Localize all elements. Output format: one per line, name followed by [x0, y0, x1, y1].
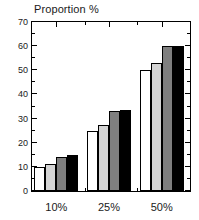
y-tick-left-50 — [32, 69, 37, 70]
x-axis-label-25pct: 25% — [98, 201, 120, 213]
x-tick-bottom-minor-2 — [137, 188, 138, 191]
y-tick-right-60 — [185, 45, 190, 46]
y-axis-label-20: 20 — [18, 138, 28, 148]
x-tick-top-10pct — [56, 22, 57, 27]
y-tick-left-20 — [32, 142, 37, 143]
y-tick-right-45 — [187, 81, 190, 82]
y-tick-right-55 — [187, 57, 190, 58]
bar-10pct-series-2 — [45, 164, 56, 191]
y-tick-left-15 — [32, 154, 35, 155]
y-tick-right-10 — [185, 166, 190, 167]
bar-50pct-series-1 — [140, 70, 151, 191]
bar-25pct-series-4 — [120, 110, 131, 191]
y-tick-left-30 — [32, 118, 37, 119]
y-tick-left-55 — [32, 57, 35, 58]
y-axis-label-60: 60 — [18, 41, 28, 51]
y-tick-right-30 — [185, 118, 190, 119]
y-tick-right-50 — [185, 69, 190, 70]
y-tick-left-60 — [32, 45, 37, 46]
y-axis-label-0: 0 — [23, 186, 28, 196]
plot-inner: 010203040506070 10%25%50% — [32, 22, 190, 191]
x-axis-label-50pct: 50% — [151, 201, 173, 213]
y-tick-left-65 — [32, 33, 35, 34]
y-tick-right-5 — [187, 178, 190, 179]
y-axis-label-70: 70 — [18, 17, 28, 27]
x-tick-bottom-minor-1 — [85, 188, 86, 191]
bar-25pct-series-2 — [98, 125, 109, 191]
chart-title: Proportion % — [34, 3, 99, 15]
chart-figure: Proportion % 010203040506070 10%25%50% — [0, 0, 199, 220]
y-tick-left-25 — [32, 130, 35, 131]
y-tick-left-35 — [32, 106, 35, 107]
y-tick-left-40 — [32, 93, 37, 94]
bar-10pct-series-4 — [67, 155, 78, 191]
bar-50pct-series-3 — [162, 46, 173, 191]
y-tick-left-70 — [32, 21, 37, 22]
y-tick-right-0 — [185, 190, 190, 191]
bar-50pct-series-4 — [173, 46, 184, 191]
y-axis-label-50: 50 — [18, 65, 28, 75]
bar-10pct-series-1 — [34, 167, 45, 191]
x-tick-top-25pct — [109, 22, 110, 27]
y-axis-label-10: 10 — [18, 162, 28, 172]
bar-25pct-series-3 — [109, 111, 120, 191]
y-tick-right-15 — [187, 154, 190, 155]
y-tick-right-25 — [187, 130, 190, 131]
y-tick-right-70 — [185, 21, 190, 22]
x-tick-top-minor-2 — [137, 22, 138, 25]
plot-area: 010203040506070 10%25%50% — [31, 21, 191, 192]
bar-10pct-series-3 — [56, 157, 67, 191]
x-axis-label-10pct: 10% — [45, 201, 67, 213]
bar-50pct-series-2 — [151, 63, 162, 191]
y-tick-right-35 — [187, 106, 190, 107]
y-axis-label-30: 30 — [18, 114, 28, 124]
x-tick-top-50pct — [162, 22, 163, 27]
y-axis-label-40: 40 — [18, 89, 28, 99]
y-tick-left-45 — [32, 81, 35, 82]
bar-25pct-series-1 — [87, 131, 98, 191]
x-tick-top-minor-1 — [85, 22, 86, 25]
y-tick-right-20 — [185, 142, 190, 143]
y-tick-right-40 — [185, 93, 190, 94]
y-tick-right-65 — [187, 33, 190, 34]
